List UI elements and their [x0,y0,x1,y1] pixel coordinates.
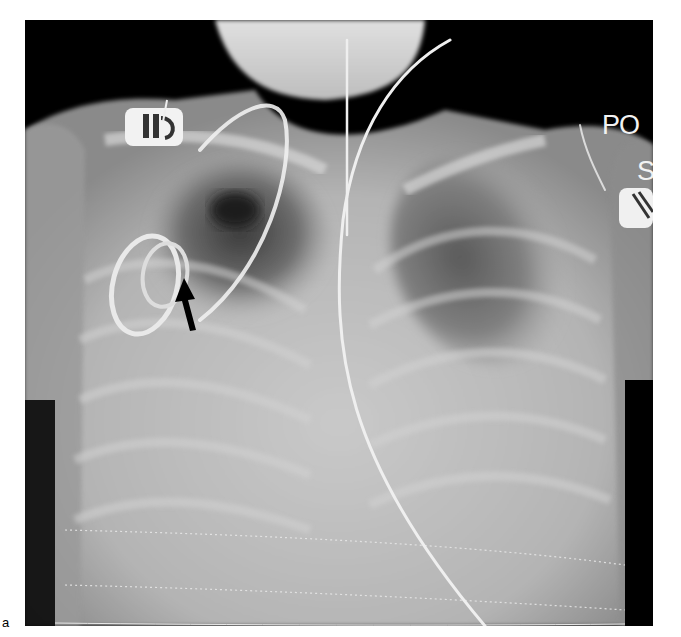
side-marker-label: S [637,158,653,185]
radiograph-image [25,20,653,626]
position-marker-label: PO [602,112,639,139]
figure-panel-label: a [2,616,9,629]
chest-radiograph: PO S [25,20,653,626]
ecg-clip-left [619,188,653,228]
